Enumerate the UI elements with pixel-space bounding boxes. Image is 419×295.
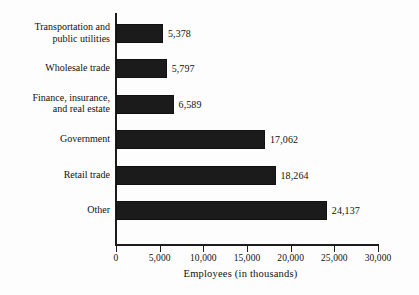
bar xyxy=(116,201,327,220)
bar-chart: 05,00010,00015,00020,00025,00030,000 Tra… xyxy=(0,0,419,295)
bar xyxy=(116,95,174,114)
x-tick-label-6: 30,000 xyxy=(365,253,392,264)
x-tick-label-2: 10,000 xyxy=(190,253,217,264)
x-tick-label-1: 5,000 xyxy=(149,253,171,264)
x-tick-1 xyxy=(160,246,161,252)
bar-row: Transportation and public utilities5,378 xyxy=(0,24,419,43)
category-label: Wholesale trade xyxy=(5,62,110,74)
bar xyxy=(116,166,276,185)
chart-screenshot: 05,00010,00015,00020,00025,00030,000 Tra… xyxy=(0,0,419,295)
x-tick-0 xyxy=(116,246,117,252)
x-tick-4 xyxy=(291,246,292,252)
x-tick-3 xyxy=(247,246,248,252)
x-tick-2 xyxy=(203,246,204,252)
bar-value-label: 24,137 xyxy=(332,205,360,216)
category-label: Government xyxy=(5,133,110,145)
bar-value-label: 5,797 xyxy=(172,63,195,74)
bar-row: Finance, insurance, and real estate6,589 xyxy=(0,95,419,114)
category-label: Retail trade xyxy=(5,169,110,181)
x-tick-label-5: 25,000 xyxy=(321,253,348,264)
bar-row: Government17,062 xyxy=(0,130,419,149)
category-label: Finance, insurance, and real estate xyxy=(5,92,110,115)
bar-row: Other24,137 xyxy=(0,201,419,220)
category-label: Other xyxy=(5,204,110,216)
bar-row: Wholesale trade5,797 xyxy=(0,59,419,78)
bar-value-label: 17,062 xyxy=(270,134,298,145)
bar-value-label: 18,264 xyxy=(281,170,309,181)
x-axis-title: Employees (in thousands) xyxy=(0,268,419,279)
x-tick-6 xyxy=(378,246,379,252)
x-axis-title-text: Employees (in thousands) xyxy=(184,268,298,279)
bar xyxy=(116,24,163,43)
bar xyxy=(116,130,265,149)
x-tick-5 xyxy=(334,246,335,252)
x-tick-label-4: 20,000 xyxy=(277,253,304,264)
x-tick-label-3: 15,000 xyxy=(234,253,261,264)
bar-value-label: 5,378 xyxy=(168,28,191,39)
bar-row: Retail trade18,264 xyxy=(0,166,419,185)
category-label: Transportation and public utilities xyxy=(5,21,110,44)
x-tick-label-0: 0 xyxy=(114,253,119,264)
bar xyxy=(116,59,167,78)
bar-value-label: 6,589 xyxy=(179,99,202,110)
